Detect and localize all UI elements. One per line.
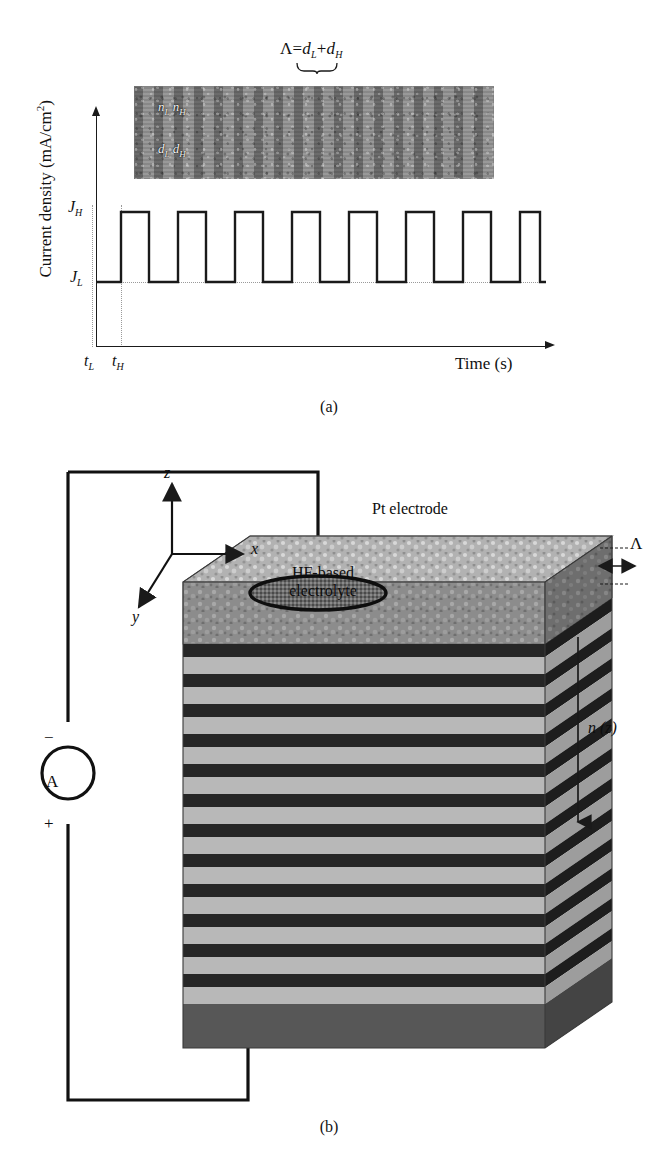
- panel-a-current-density-chart: Λ=dL+dH nL nH dL dH Current density (mA/…: [0, 0, 658, 432]
- negative-terminal-label: −: [44, 728, 54, 748]
- current-density-waveform: [0, 100, 658, 390]
- jh-subscript: H: [75, 207, 82, 218]
- x-tick-label-tl: tL: [84, 352, 94, 372]
- y-axis-title-text: Current density (mA/cm: [36, 111, 55, 277]
- d-high-subscript: H: [335, 49, 342, 60]
- electrolyte-label: HF-based electrolyte: [258, 564, 388, 600]
- y-tick-label-jh: JH: [68, 198, 82, 218]
- th-subscript: H: [116, 361, 123, 372]
- y-axis-title: Current density (mA/cm2): [34, 74, 56, 304]
- y-axis-title-close: ): [36, 100, 55, 106]
- substrate-front-face: [183, 1004, 545, 1048]
- panel-b-caption: (b): [0, 1118, 658, 1136]
- axis-label-x: x: [251, 540, 258, 558]
- equals-sign: =: [293, 39, 303, 58]
- period-brace-icon: [296, 62, 338, 74]
- panel-a-caption: (a): [0, 398, 658, 416]
- d-high-term: d: [327, 39, 336, 58]
- axis-label-z: z: [164, 464, 170, 482]
- electrolyte-label-line2: electrolyte: [289, 582, 357, 599]
- panel-b-electrochemical-cell: Pt electrode HF-based electrolyte Silico…: [0, 432, 658, 1159]
- ammeter-label: A: [46, 772, 58, 792]
- square-wave-chart: Current density (mA/cm2) JH JL tL tH Tim…: [0, 100, 658, 390]
- cell-schematic-drawing: [0, 432, 658, 1159]
- lambda-symbol: Λ: [280, 39, 293, 58]
- axis-y-line: [139, 554, 172, 607]
- x-tick-label-th: tH: [112, 352, 124, 372]
- y-tick-label-jl: JL: [70, 268, 83, 288]
- period-label-lambda: Λ: [630, 534, 642, 554]
- index-profile-label: n (z): [588, 719, 617, 737]
- block-top-face: [183, 536, 612, 582]
- pt-electrode-label: Pt electrode: [372, 500, 448, 518]
- cell-block-3d: [183, 536, 612, 1048]
- waveform-polyline: [96, 212, 546, 282]
- d-low-term: d: [302, 39, 311, 58]
- lambda-period-formula: Λ=dL+dH: [280, 39, 343, 60]
- electrolyte-label-line1: HF-based: [292, 564, 354, 581]
- positive-terminal-label: +: [44, 814, 54, 834]
- tl-subscript: L: [88, 361, 94, 372]
- multilayer-front-faces: [183, 644, 545, 1004]
- x-axis-title: Time (s): [455, 354, 512, 374]
- axis-label-y: y: [132, 608, 139, 626]
- plus-sign: +: [317, 39, 327, 58]
- y-axis-title-superscript: 2: [34, 106, 46, 112]
- jl-subscript: L: [77, 277, 83, 288]
